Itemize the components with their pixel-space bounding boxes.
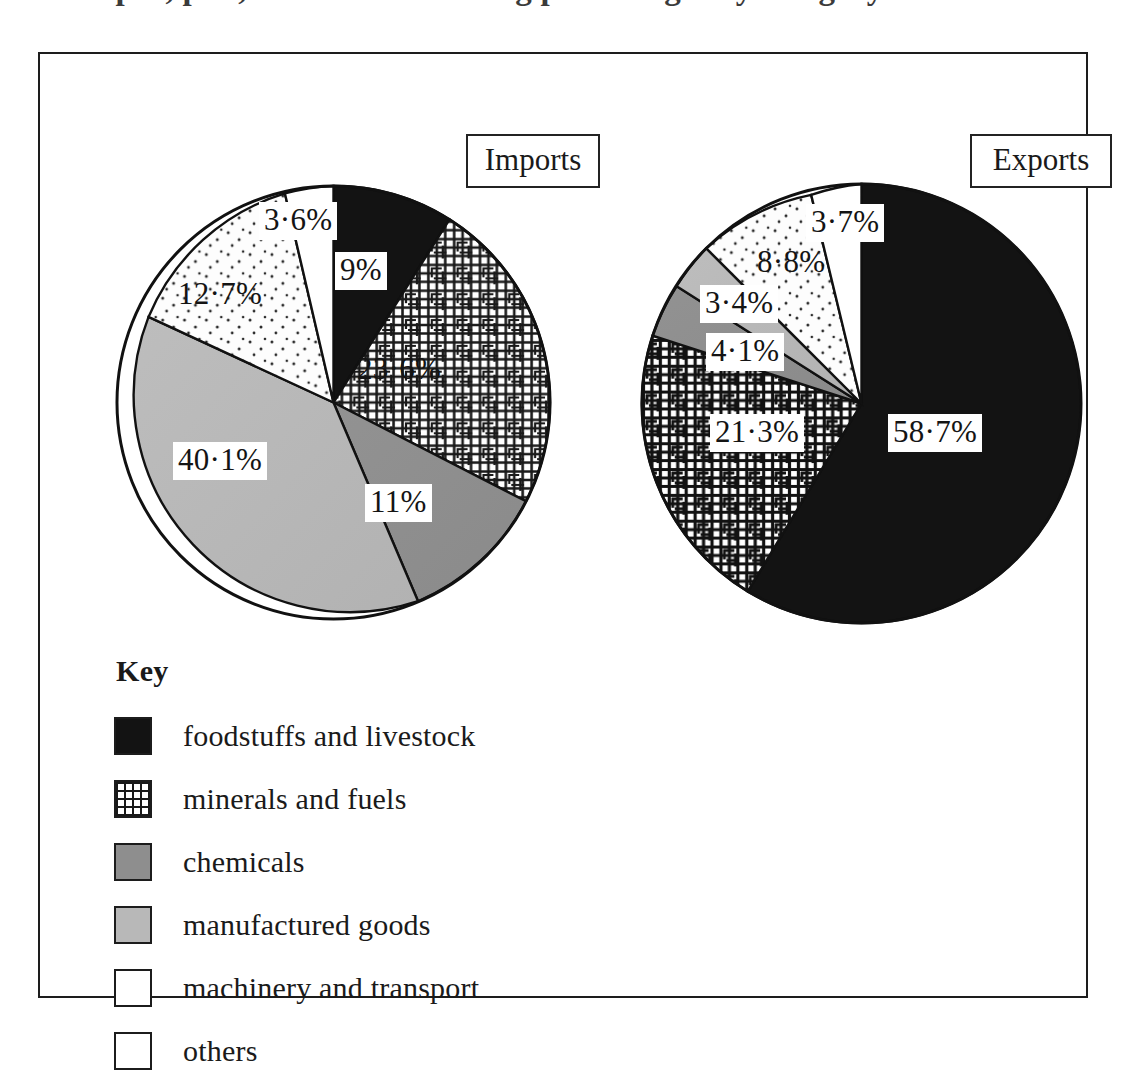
exports-title: Exports [993, 142, 1089, 177]
key-label-foodstuffs: foodstuffs and livestock [183, 721, 476, 751]
key-swatch-lightgray-icon [114, 906, 152, 944]
imports-value-foodstuffs: 9% [335, 252, 387, 290]
key-item-manufactured: manufactured goods [114, 893, 734, 956]
imports-value-chemicals: 11% [365, 484, 432, 522]
key-label-manufactured: manufactured goods [183, 910, 431, 940]
key-swatch-black-icon [114, 717, 152, 755]
key-label-others: others [183, 1036, 258, 1066]
page-title: Graphs, pies, and charts showing percent… [58, 0, 884, 7]
exports-value-chemicals: 4·1% [706, 333, 784, 371]
exports-pie: 3·7% 8·8% 3·4% 4·1% 21·3% 58·7% [640, 182, 1083, 625]
key-item-foodstuffs: foodstuffs and livestock [114, 704, 734, 767]
imports-value-machinery: 3·6% [259, 202, 337, 240]
imports-title: Imports [485, 142, 581, 177]
exports-value-others: 8·8% [752, 244, 830, 282]
key-swatch-white-machinery-icon [114, 969, 152, 1007]
key-label-chemicals: chemicals [183, 847, 305, 877]
page-title-strip: Graphs, pies, and charts showing percent… [0, 0, 1133, 26]
imports-value-others: 12·7% [173, 276, 267, 314]
figure-frame: Imports [38, 52, 1088, 998]
imports-title-box: Imports [466, 134, 600, 188]
key-item-minerals: minerals and fuels [114, 767, 734, 830]
exports-title-box: Exports [970, 134, 1112, 188]
key-swatch-crosshatch-icon [114, 780, 152, 818]
key-label-machinery: machinery and transport [183, 973, 479, 1003]
imports-pie-svg [115, 184, 552, 621]
imports-pie: 3·6% 9% 12·7% 23·6% 40·1% 11% [115, 184, 552, 621]
key-item-chemicals: chemicals [114, 830, 734, 893]
key-swatch-midgray-icon [114, 843, 152, 881]
imports-value-minerals: 23·6% [352, 351, 446, 389]
exports-value-minerals: 21·3% [710, 414, 804, 452]
exports-value-machinery: 3·7% [806, 204, 884, 242]
imports-value-manufactured: 40·1% [173, 442, 267, 480]
key-block: Key foodstuffs and livestock minerals an… [114, 654, 734, 1074]
key-swatch-white-others-icon [114, 1032, 152, 1070]
exports-value-foodstuffs: 58·7% [888, 414, 982, 452]
key-item-others: others [114, 1019, 734, 1074]
exports-pie-svg [640, 182, 1083, 625]
key-heading: Key [116, 654, 734, 688]
key-item-machinery: machinery and transport [114, 956, 734, 1019]
exports-value-manufactured: 3·4% [700, 285, 778, 323]
key-label-minerals: minerals and fuels [183, 784, 407, 814]
